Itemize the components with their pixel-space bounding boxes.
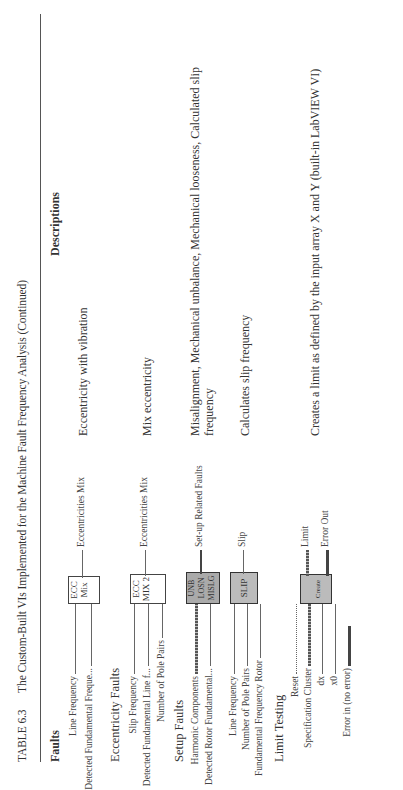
input-label: Error in (no error) xyxy=(342,668,352,737)
column-header-descriptions: Descriptions xyxy=(48,192,63,256)
output-label: Eccentricities Mix xyxy=(139,477,149,547)
table-number: TABLE 6.3 xyxy=(16,710,28,762)
input-label: Reset xyxy=(290,676,300,697)
input-label: Number of Pole Pairs xyxy=(156,640,166,722)
row-description: Mix eccentricity xyxy=(140,46,154,436)
input-label: x0 xyxy=(329,676,339,686)
output-label: Set-up Related Faults xyxy=(194,465,204,547)
output-label: Slip xyxy=(237,532,247,547)
create-limit-vi-icon: Create xyxy=(300,574,332,604)
input-label: Detected Fundamental Line f... xyxy=(142,668,152,786)
table-caption: TABLE 6.3 The Custom-Built VIs Implement… xyxy=(16,280,28,762)
unb-losn-mislg-vi-icon: UNBLOSNMISLG xyxy=(186,572,220,604)
output-label: Error Out xyxy=(320,510,330,547)
table-title: The Custom-Built VIs Implemented for the… xyxy=(16,280,28,693)
input-label: Detected Fundamental Freque... xyxy=(84,668,94,790)
output-label: Limit xyxy=(300,526,310,547)
input-label: Number of Pole Pairs xyxy=(241,668,251,750)
section-heading: Setup Faults xyxy=(172,700,187,762)
input-label: Slip Frequency xyxy=(128,676,138,734)
slip-vi-icon: SLIP xyxy=(230,572,258,604)
row-description: Calculates slip frequency xyxy=(238,46,252,436)
input-label: Specification Cluster xyxy=(303,668,313,748)
ecc-mix-vi-icon: ECCMix xyxy=(68,576,100,604)
top-rule xyxy=(40,14,41,762)
input-label: Fundamental Frequency Rotor xyxy=(254,660,264,776)
section-heading: Eccentricity Faults xyxy=(108,668,123,762)
section-heading: Limit Testing xyxy=(272,695,287,762)
ecc-mix2-vi-icon: ECCMIX 2 xyxy=(130,574,166,604)
input-label: Line Frequency xyxy=(228,676,238,736)
input-label: Line Frequency xyxy=(68,676,78,736)
row-description: Eccentricity with vibration xyxy=(76,46,90,436)
input-label: Harmonic Components xyxy=(190,676,200,764)
input-label: Detected Rotor Fundamental... xyxy=(204,668,214,785)
column-header-faults: Faults xyxy=(48,730,63,762)
input-label: dx xyxy=(316,676,326,686)
output-label: Eccentricities Mix xyxy=(76,477,86,547)
row-description: Misalignment, Mechanical unbalance, Mech… xyxy=(188,46,216,436)
row-description: Creates a limit as defined by the input … xyxy=(308,46,322,436)
